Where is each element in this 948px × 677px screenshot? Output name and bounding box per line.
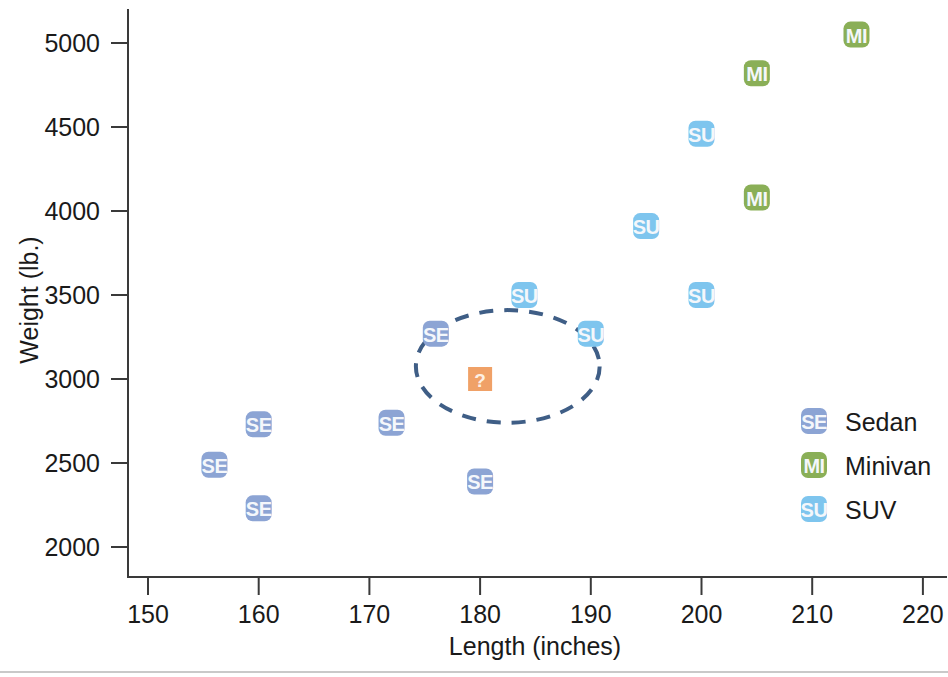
x-tick-label: 220 [902, 600, 944, 628]
x-axis-title: Length (inches) [449, 632, 621, 660]
x-tick-label: 150 [127, 600, 169, 628]
data-point-sedan: SE [201, 452, 227, 478]
y-tick-label: 3000 [44, 365, 100, 393]
x-tick-label: 160 [238, 600, 280, 628]
y-axis-tick-labels: 2000250030003500400045005000 [44, 29, 100, 561]
data-point-sedan: SE [423, 321, 449, 347]
unknown-point-marker: ? [468, 367, 492, 391]
data-point-minivan: MI [843, 22, 869, 48]
unknown-data-point: ? [468, 367, 492, 391]
legend-marker-code: SE [801, 411, 827, 433]
marker-code: SU [688, 285, 715, 307]
data-point-sedan: SE [467, 468, 493, 494]
legend-swatch-minivan: MI [801, 452, 827, 478]
y-tick-label: 2500 [44, 449, 100, 477]
marker-code: MI [846, 25, 867, 47]
x-tick-label: 180 [459, 600, 501, 628]
y-tick-label: 5000 [44, 29, 100, 57]
chart-legend: SESedanMIMinivanSUSUV [801, 408, 932, 524]
legend-marker-code: SU [801, 499, 828, 521]
marker-code: SU [633, 216, 660, 238]
legend-label: Sedan [845, 408, 917, 436]
y-tick-label: 2000 [44, 533, 100, 561]
marker-code: SE [202, 455, 228, 477]
unknown-marker-code: ? [474, 370, 486, 391]
data-point-suv: SU [688, 282, 715, 308]
marker-code: MI [746, 63, 767, 85]
marker-code: SE [246, 498, 272, 520]
marker-code: SU [511, 285, 538, 307]
x-tick-label: 210 [791, 600, 833, 628]
data-points: SESESESESESEMIMIMISUSUSUSUSU [201, 22, 869, 522]
x-tick-label: 170 [349, 600, 391, 628]
legend-item-sedan[interactable]: SESedan [801, 408, 917, 436]
data-point-suv: SU [633, 213, 660, 239]
y-tick-label: 4500 [44, 113, 100, 141]
marker-code: SE [467, 471, 493, 493]
data-point-sedan: SE [379, 410, 405, 436]
marker-code: SE [423, 324, 449, 346]
marker-code: SE [379, 413, 405, 435]
y-axis-title: Weight (lb.) [15, 236, 43, 363]
data-point-minivan: MI [744, 60, 770, 86]
data-point-suv: SU [577, 321, 604, 347]
marker-code: SU [688, 124, 715, 146]
data-point-minivan: MI [744, 185, 770, 211]
legend-item-suv[interactable]: SUSUV [801, 496, 897, 524]
legend-item-minivan[interactable]: MIMinivan [801, 452, 931, 480]
data-point-sedan: SE [246, 495, 272, 521]
data-point-suv: SU [688, 121, 715, 147]
marker-code: MI [746, 188, 767, 210]
y-tick-label: 4000 [44, 197, 100, 225]
x-axis-tick-labels: 150160170180190200210220 [127, 600, 944, 628]
legend-swatch-sedan: SE [801, 408, 827, 434]
plot-canvas: 2000250030003500400045005000 15016017018… [0, 0, 948, 677]
y-tick-label: 3500 [44, 281, 100, 309]
x-tick-label: 190 [570, 600, 612, 628]
data-point-suv: SU [511, 282, 538, 308]
x-tick-label: 200 [681, 600, 723, 628]
marker-code: SU [577, 324, 604, 346]
legend-label: Minivan [845, 452, 931, 480]
marker-code: SE [246, 414, 272, 436]
scatter-plot-figure: 2000250030003500400045005000 15016017018… [0, 0, 948, 677]
legend-label: SUV [845, 496, 897, 524]
legend-marker-code: MI [803, 455, 824, 477]
legend-swatch-suv: SU [801, 496, 828, 522]
data-point-sedan: SE [246, 411, 272, 437]
